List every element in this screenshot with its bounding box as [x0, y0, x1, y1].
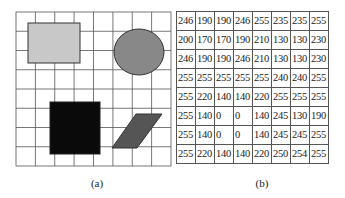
pixel-cell: 190: [215, 12, 234, 31]
pixel-cell: 190: [234, 31, 253, 50]
pixel-value-table: 246 190 190 246 255 235 235 255 200 170 …: [176, 11, 329, 164]
pixel-cell: 245: [291, 126, 310, 145]
pixel-cell: 246: [234, 50, 253, 69]
table-row: 255 140 0 0 140 245 130 190: [177, 107, 329, 126]
pixel-cell: 255: [177, 107, 196, 126]
pixel-cell: 210: [253, 31, 272, 50]
table-row: 255 220 140 140 220 250 254 255: [177, 145, 329, 164]
caption-a: (a): [82, 177, 112, 189]
pixel-cell: 255: [310, 88, 329, 107]
pixel-cell: 170: [215, 31, 234, 50]
pixel-cell: 255: [215, 69, 234, 88]
pixel-cell: 240: [291, 69, 310, 88]
table-row: 255 140 0 0 140 245 245 255: [177, 126, 329, 145]
pixel-cell: 255: [310, 145, 329, 164]
pixel-cell: 255: [234, 69, 253, 88]
pixel-cell: 255: [177, 126, 196, 145]
pixel-cell: 255: [291, 88, 310, 107]
pixel-cell: 140: [196, 107, 215, 126]
pixel-cell: 170: [196, 31, 215, 50]
pixel-cell: 0: [234, 107, 253, 126]
pixel-cell: 230: [310, 31, 329, 50]
pixel-cell: 130: [272, 50, 291, 69]
pixel-cell: 255: [310, 69, 329, 88]
pixel-cell: 140: [253, 107, 272, 126]
pixel-cell: 0: [215, 107, 234, 126]
pixel-cell: 255: [310, 12, 329, 31]
pixel-cell: 140: [253, 126, 272, 145]
pixel-cell: 220: [196, 88, 215, 107]
pixel-cell: 190: [196, 50, 215, 69]
pixel-cell: 250: [272, 145, 291, 164]
pixel-cell: 130: [291, 31, 310, 50]
pixel-cell: 246: [177, 50, 196, 69]
pixel-cell: 245: [272, 107, 291, 126]
pixel-cell: 220: [196, 145, 215, 164]
pixel-cell: 210: [253, 50, 272, 69]
light-gray-rectangle: [28, 23, 80, 63]
pixel-cell: 235: [291, 12, 310, 31]
pixel-cell: 255: [253, 12, 272, 31]
pixel-cell: 230: [310, 50, 329, 69]
table-row: 255 220 140 140 220 255 255 255: [177, 88, 329, 107]
pixel-cell: 255: [177, 145, 196, 164]
pixel-cell: 140: [234, 145, 253, 164]
pixel-cell: 0: [215, 126, 234, 145]
pixel-cell: 246: [177, 12, 196, 31]
pixel-cell: 255: [310, 126, 329, 145]
table-row: 200 170 170 190 210 130 130 230: [177, 31, 329, 50]
pixel-cell: 190: [310, 107, 329, 126]
pixel-cell: 255: [272, 88, 291, 107]
pixel-cell: 140: [215, 88, 234, 107]
pixel-cell: 200: [177, 31, 196, 50]
pixel-cell: 130: [272, 31, 291, 50]
pixel-cell: 220: [253, 88, 272, 107]
table-row: 246 190 190 246 210 130 130 230: [177, 50, 329, 69]
pixel-cell: 0: [234, 126, 253, 145]
table-row: 246 190 190 246 255 235 235 255: [177, 12, 329, 31]
panel-a-image-grid: (a): [0, 0, 175, 198]
pixel-cell: 130: [291, 50, 310, 69]
grid-image: [0, 0, 175, 175]
pixel-cell: 220: [253, 145, 272, 164]
pixel-cell: 240: [272, 69, 291, 88]
pixel-cell: 190: [196, 12, 215, 31]
pixel-cell: 255: [177, 88, 196, 107]
pixel-cell: 140: [215, 145, 234, 164]
pixel-cell: 255: [177, 69, 196, 88]
pixel-cell: 130: [291, 107, 310, 126]
pixel-cell: 254: [291, 145, 310, 164]
pixel-cell: 245: [272, 126, 291, 145]
black-square: [50, 102, 100, 154]
pixel-cell: 246: [234, 12, 253, 31]
pixel-cell: 255: [253, 69, 272, 88]
pixel-cell: 235: [272, 12, 291, 31]
pixel-cell: 190: [215, 50, 234, 69]
table-row: 255 255 255 255 255 240 240 255: [177, 69, 329, 88]
pixel-cell: 140: [234, 88, 253, 107]
gray-circle: [114, 29, 164, 75]
panel-b-pixel-values-table: 246 190 190 246 255 235 235 255 200 170 …: [176, 11, 329, 164]
pixel-cell: 255: [196, 69, 215, 88]
caption-b: (b): [247, 177, 277, 189]
pixel-cell: 140: [196, 126, 215, 145]
